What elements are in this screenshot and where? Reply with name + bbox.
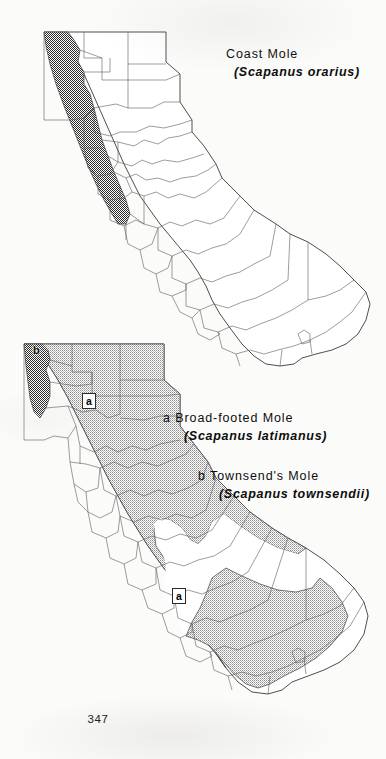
map-marker-b-northwest: b (30, 343, 43, 357)
legend-broad-footed-mole-scientific-name: (Scapanus latimanus) (184, 427, 327, 445)
map-marker-a-north: a (82, 393, 96, 409)
legend-coast-mole: Coast Mole (Scapanus orarius) (226, 46, 360, 81)
legend-coast-mole-common-name: Coast Mole (226, 46, 360, 63)
page-number: 347 (0, 713, 386, 725)
legend-broad-footed-mole-common-name: a Broad-footed Mole (163, 410, 327, 427)
legend-townsends-mole-common-name: b Townsend's Mole (198, 468, 370, 485)
legend-townsends-mole-scientific-name: (Scapanus townsendii) (219, 485, 370, 503)
legend-coast-mole-scientific-name: (Scapanus orarius) (234, 63, 360, 81)
map-marker-a-south: a (172, 588, 186, 604)
legend-broad-footed-mole: a Broad-footed Mole (Scapanus latimanus) (163, 410, 327, 445)
page-number-value: 347 (88, 713, 109, 725)
legend-townsends-mole: b Townsend's Mole (Scapanus townsendii) (198, 468, 370, 503)
scanned-page: a a b Coast Mole (Scapanus orarius) a Br… (0, 0, 386, 759)
map-broad-footed-and-townsends-mole (0, 0, 386, 759)
